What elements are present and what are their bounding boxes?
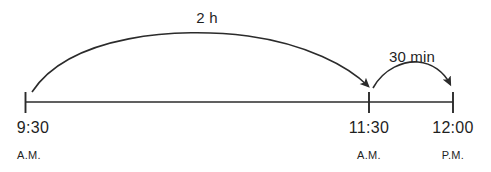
tick-period-middle: A.M. <box>357 150 381 161</box>
diagram-graphics <box>0 0 491 172</box>
jump-label-first: 2 h <box>196 10 217 25</box>
tick-time-start: 9:30 <box>17 120 49 136</box>
jump-arc-second <box>373 62 450 88</box>
elapsed-time-number-line-diagram: 2 h 30 min 9:30 A.M. 11:30 A.M. 12:00 P.… <box>0 0 491 172</box>
jump-arc-first <box>32 33 368 92</box>
jump-label-second: 30 min <box>389 49 435 64</box>
tick-time-middle: 11:30 <box>349 120 389 136</box>
tick-period-end: P.M. <box>442 150 464 161</box>
tick-period-start: A.M. <box>17 150 41 161</box>
tick-time-end: 12:00 <box>432 120 474 136</box>
